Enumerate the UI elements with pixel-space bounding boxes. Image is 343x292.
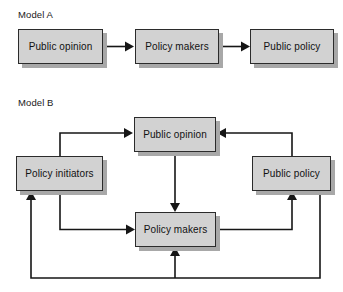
arrow-head-icon xyxy=(26,191,36,200)
edge-b-policy-initiators-to-public-opinion xyxy=(60,128,133,156)
node-a-public-opinion[interactable]: Public opinion xyxy=(18,29,103,64)
node-label: Policy initiators xyxy=(25,169,93,179)
edge-b-policy-makers-to-public-policy xyxy=(217,191,297,230)
arrow-head-icon xyxy=(126,225,135,235)
node-b-policy-initiators[interactable]: Policy initiators xyxy=(16,156,103,191)
arrow-head-icon xyxy=(124,128,133,138)
node-a-public-policy[interactable]: Public policy xyxy=(250,29,334,64)
node-label: Public opinion xyxy=(29,42,93,52)
edge-a-public-opinion-to-policy-makers xyxy=(104,42,134,52)
node-label: Public opinion xyxy=(143,130,207,140)
edge-b-public-opinion-to-policy-makers xyxy=(170,152,180,212)
policy-models-diagram: Model A Model B Public opinion Policy ma… xyxy=(0,0,343,292)
node-label: Policy makers xyxy=(145,42,209,52)
node-label: Public policy xyxy=(264,42,321,52)
arrow-head-icon xyxy=(241,42,250,52)
arrow-head-icon xyxy=(125,42,134,52)
edge-b-feedback-to-policy-makers xyxy=(170,247,180,278)
node-a-policy-makers[interactable]: Policy makers xyxy=(135,29,219,64)
node-b-public-policy[interactable]: Public policy xyxy=(252,156,331,191)
node-label: Policy makers xyxy=(144,225,208,235)
edge-b-policy-initiators-to-policy-makers xyxy=(60,191,135,235)
node-b-public-opinion[interactable]: Public opinion xyxy=(134,117,216,152)
arrow-head-icon xyxy=(170,203,180,212)
arrow-head-icon xyxy=(217,128,226,138)
arrow-head-icon xyxy=(170,247,180,256)
node-label: Public policy xyxy=(263,169,320,179)
arrow-head-icon xyxy=(287,191,297,200)
edge-a-policy-makers-to-public-policy xyxy=(220,42,250,52)
edge-b-public-policy-to-public-opinion xyxy=(217,128,292,156)
node-b-policy-makers[interactable]: Policy makers xyxy=(135,212,216,247)
